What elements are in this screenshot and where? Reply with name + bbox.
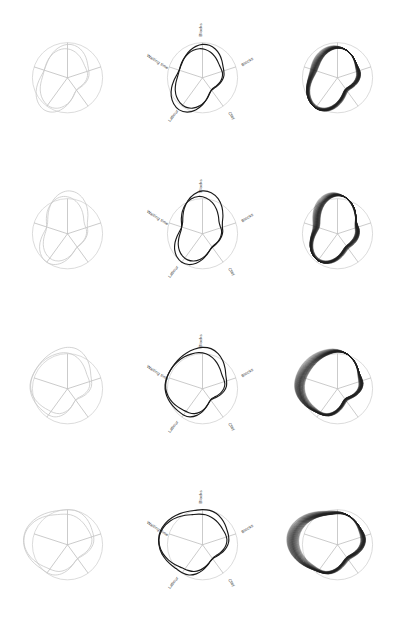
axis-label-2: Blocks [240, 56, 254, 67]
curve-main [159, 509, 229, 574]
curve-stack-layer [307, 47, 360, 110]
curve-main-secondary [166, 353, 225, 414]
curve-outline-secondary [31, 353, 90, 414]
chart-cell-r1-c3 [270, 0, 405, 156]
radar-axis-spoke-4 [317, 544, 338, 572]
polar-chart-r2-c1 [0, 156, 135, 312]
polar-chart-r4-c3 [270, 467, 405, 622]
axis-label-5: Waiting time [146, 53, 170, 71]
polar-chart-r4-c1 [0, 467, 135, 622]
curve-outline [24, 509, 94, 574]
radar-axis-spoke-2 [68, 222, 101, 233]
axis-label-5: Waiting time [146, 208, 170, 226]
axis-label-4: Labour [167, 264, 180, 278]
polar-chart-r1-c3 [270, 0, 405, 156]
radar-axis-spoke-4 [317, 78, 338, 106]
radar-axis-spoke-5 [169, 378, 202, 389]
chart-cell-r3-c2: BlocksBlocksClayLabourWaiting time [135, 311, 270, 467]
radar-axis-spoke-5 [304, 533, 337, 544]
radar-axis-spoke-2 [68, 533, 101, 544]
radar-axis-spoke-2 [68, 378, 101, 389]
radar-axis-spoke-5 [34, 67, 67, 78]
axis-label-1: Blocks [199, 490, 204, 503]
chart-cell-r4-c1 [0, 467, 135, 622]
chart-cell-r1-c1 [0, 0, 135, 156]
radar-axis-spoke-5 [34, 533, 67, 544]
chart-cell-r4-c3 [270, 467, 405, 622]
chart-cell-r4-c2: BlocksBlocksClayLabourWaiting time [135, 467, 270, 622]
radar-axis-spoke-2 [338, 67, 371, 78]
radar-axis-spoke-4 [47, 78, 68, 106]
polar-chart-r3-c2: BlocksBlocksClayLabourWaiting time [135, 311, 270, 467]
curve-stack [287, 510, 366, 573]
chart-cell-r2-c1 [0, 156, 135, 312]
polar-chart-r4-c2: BlocksBlocksClayLabourWaiting time [135, 467, 270, 622]
radar-axis-spoke-5 [169, 222, 202, 233]
axis-label-2: Blocks [240, 523, 254, 534]
axis-label-4: Labour [167, 419, 180, 433]
radar-axis-spoke-5 [169, 533, 202, 544]
radar-axis-spoke-3 [68, 389, 89, 417]
polar-chart-r3-c1 [0, 311, 135, 467]
curve-stack-layer [307, 46, 361, 111]
axis-label-3: Clay [227, 111, 237, 122]
radar-axis-spoke-2 [338, 378, 371, 389]
radar-axis-spoke-2 [203, 67, 236, 78]
polar-chart-r2-c3 [270, 156, 405, 312]
curve-main-secondary [175, 49, 222, 109]
chart-cell-r1-c2: BlocksBlocksClayLabourWaiting time [135, 0, 270, 156]
radar-axis-spoke-5 [34, 378, 67, 389]
polar-chart-r1-c1 [0, 0, 135, 156]
axis-label-1: Blocks [199, 334, 204, 347]
radar-axis-spoke-2 [338, 533, 371, 544]
axis-label-2: Blocks [240, 212, 254, 223]
radar-axis-spoke-4 [317, 233, 338, 261]
radar-axis-spoke-5 [304, 378, 337, 389]
radar-axis-spoke-2 [203, 378, 236, 389]
curve-main [165, 347, 227, 417]
curve-stack [295, 349, 364, 416]
chart-cell-r3-c1 [0, 311, 135, 467]
radar-axis-spoke-4 [182, 78, 203, 106]
radar-axis-spoke-4 [47, 389, 68, 417]
curve-stack-layer [307, 47, 360, 110]
radar-axis-spoke-2 [338, 222, 371, 233]
axis-label-3: Clay [227, 422, 237, 433]
polar-chart-r2-c2: BlocksBlocksClayLabourWaiting time [135, 156, 270, 312]
radar-axis-spoke-2 [203, 533, 236, 544]
figure-grid: BlocksBlocksClayLabourWaiting timeBlocks… [0, 0, 405, 622]
curve-outline [30, 347, 92, 417]
radar-axis-spoke-2 [68, 67, 101, 78]
chart-cell-r3-c3 [270, 311, 405, 467]
axis-label-1: Blocks [199, 23, 204, 36]
chart-cell-r2-c2: BlocksBlocksClayLabourWaiting time [135, 156, 270, 312]
axis-label-2: Blocks [240, 367, 254, 378]
polar-chart-r3-c3 [270, 311, 405, 467]
chart-cell-r2-c3 [270, 156, 405, 312]
axis-label-3: Clay [227, 577, 237, 588]
axis-label-3: Clay [227, 266, 237, 277]
radar-axis-spoke-5 [169, 67, 202, 78]
radar-axis-spoke-5 [304, 222, 337, 233]
curve-outline-secondary [40, 49, 87, 109]
radar-axis-spoke-5 [34, 222, 67, 233]
axis-label-4: Labour [167, 108, 180, 122]
axis-label-4: Labour [167, 575, 180, 589]
polar-chart-r1-c2: BlocksBlocksClayLabourWaiting time [135, 0, 270, 156]
curve-stack [307, 46, 361, 111]
curve-stack [310, 192, 360, 263]
